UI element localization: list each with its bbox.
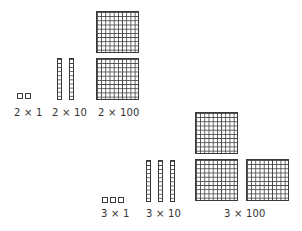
- label-3x10: 3 × 10: [146, 208, 181, 219]
- ten-rod: [146, 160, 151, 202]
- unit-cube: [17, 93, 23, 99]
- hundred-flat: [96, 58, 139, 100]
- hundred-flat: [195, 159, 238, 201]
- unit-cube: [110, 197, 116, 203]
- label-2x10: 2 × 10: [52, 107, 87, 118]
- ten-rod: [170, 160, 175, 202]
- ten-rod: [158, 160, 163, 202]
- hundred-flat: [96, 11, 139, 53]
- label-3x100: 3 × 100: [224, 208, 266, 219]
- hundred-flat: [195, 112, 238, 154]
- unit-cube: [118, 197, 124, 203]
- label-3x1: 3 × 1: [101, 208, 129, 219]
- unit-cube: [102, 197, 108, 203]
- hundred-flat: [246, 159, 289, 201]
- ten-rod: [57, 58, 62, 100]
- unit-cube: [25, 93, 31, 99]
- label-2x1: 2 × 1: [14, 107, 42, 118]
- label-2x100: 2 × 100: [98, 107, 140, 118]
- ten-rod: [69, 58, 74, 100]
